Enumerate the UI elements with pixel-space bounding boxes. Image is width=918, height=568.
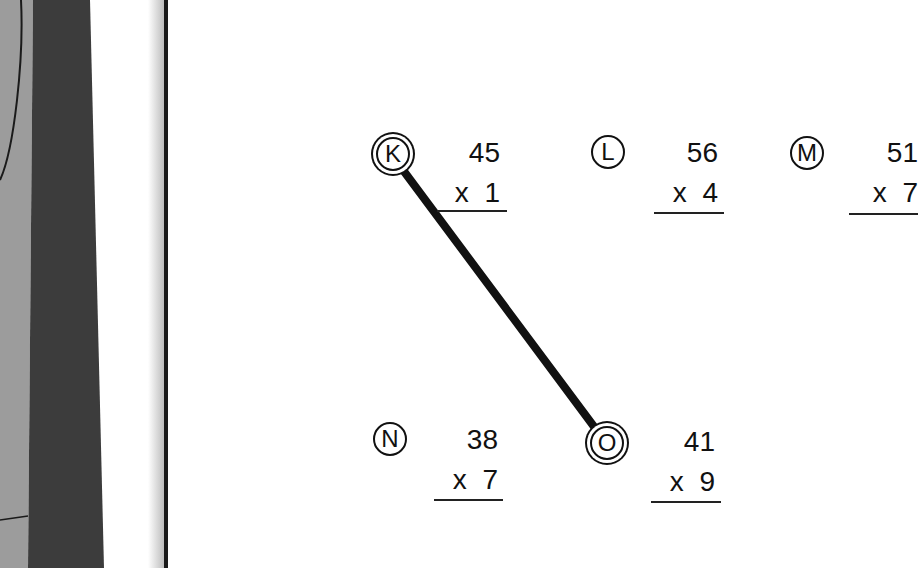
answer-line-n	[434, 499, 503, 501]
page-gutter-shadow	[148, 0, 164, 568]
label-circle-m[interactable]: M	[790, 136, 824, 170]
multiplier-o: x 9	[635, 468, 715, 496]
multiplicand-m: 51	[838, 139, 918, 167]
multiplicand-l: 56	[638, 139, 718, 167]
binding-dark-band	[28, 0, 104, 568]
label-circle-o[interactable]: O	[590, 426, 624, 460]
multiplier-m: x 7	[838, 179, 918, 207]
binding-light-band	[0, 0, 33, 568]
page-border-line	[164, 0, 168, 568]
multiplier-l: x 4	[638, 179, 718, 207]
label-circle-l[interactable]: L	[591, 135, 625, 169]
label-circle-k[interactable]: K	[376, 137, 410, 171]
multiplicand-n: 38	[418, 426, 498, 454]
multiplier-k: x 1	[420, 179, 500, 207]
multiplicand-o: 41	[635, 428, 715, 456]
answer-line-o	[651, 501, 721, 503]
answer-line-m	[849, 213, 918, 215]
answer-line-l	[654, 212, 724, 214]
multiplier-n: x 7	[418, 466, 498, 494]
multiplicand-k: 45	[420, 139, 500, 167]
label-circle-n[interactable]: N	[373, 422, 407, 456]
answer-line-k	[437, 210, 507, 212]
